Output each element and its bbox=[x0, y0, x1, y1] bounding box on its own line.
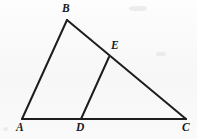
vertex-label-C: C bbox=[182, 122, 190, 134]
segment-AB bbox=[22, 20, 67, 119]
segments-group bbox=[22, 20, 186, 119]
segment-DE bbox=[81, 57, 109, 119]
vertex-label-B: B bbox=[62, 3, 70, 15]
vertex-label-A: A bbox=[16, 122, 24, 134]
triangle-diagram-svg bbox=[0, 0, 197, 139]
scan-speck-3 bbox=[156, 52, 166, 56]
scan-speck-2 bbox=[129, 6, 147, 11]
vertex-label-E: E bbox=[111, 40, 119, 52]
geometry-figure: A B C D E bbox=[0, 0, 197, 139]
vertex-label-D: D bbox=[76, 122, 84, 134]
segment-BC bbox=[67, 20, 186, 119]
scan-speck-1 bbox=[3, 127, 8, 131]
